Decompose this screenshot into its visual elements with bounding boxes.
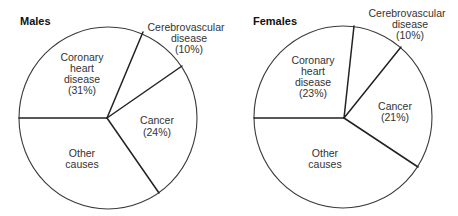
females-title: Females xyxy=(253,15,297,27)
svg-text:causes: causes xyxy=(308,158,341,170)
females-slice-other-label: Other causes xyxy=(308,147,341,170)
svg-text:Cancer: Cancer xyxy=(140,114,174,126)
svg-text:(21%): (21%) xyxy=(381,111,409,123)
pie-charts: Males Coronary heart disease (31%) Cereb… xyxy=(0,0,458,216)
figure: Males Coronary heart disease (31%) Cereb… xyxy=(0,0,458,216)
males-title: Males xyxy=(20,15,51,27)
svg-text:(23%): (23%) xyxy=(299,87,327,99)
svg-text:(10%): (10%) xyxy=(175,43,203,55)
females-pie-chart: Females Coronary heart disease (23%) Cer… xyxy=(253,7,446,208)
males-slice-cancer-label: Cancer (24%) xyxy=(140,114,174,138)
svg-text:(10%): (10%) xyxy=(396,29,424,41)
males-slice-other-label: Other causes xyxy=(65,147,98,170)
svg-text:causes: causes xyxy=(65,158,98,170)
females-slice-cancer-label: Cancer (21%) xyxy=(378,100,412,123)
svg-text:(31%): (31%) xyxy=(68,84,96,96)
svg-text:(24%): (24%) xyxy=(143,126,171,138)
males-pie-chart: Males Coronary heart disease (31%) Cereb… xyxy=(19,15,225,209)
